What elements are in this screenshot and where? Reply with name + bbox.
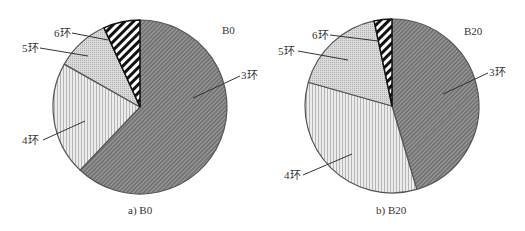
slice-label-5: 5环 bbox=[278, 45, 295, 57]
slice-label-6: 6环 bbox=[54, 27, 71, 39]
slice-label-4: 4环 bbox=[22, 134, 39, 146]
slice-label-3: 3环 bbox=[489, 66, 506, 78]
chart-title: B20 bbox=[464, 25, 483, 37]
pie-b20 bbox=[305, 19, 479, 193]
slice-label-3: 3环 bbox=[241, 69, 258, 81]
chart-caption: b) B20 bbox=[376, 204, 407, 217]
pie-chart-figure: B0 3环 4环 5环 6环 a) B0 B20 3环 4环 5环 6环 b) … bbox=[0, 0, 525, 231]
slice-label-5: 5环 bbox=[22, 42, 39, 54]
slice-label-4: 4环 bbox=[284, 169, 301, 181]
chart-caption: a) B0 bbox=[128, 204, 153, 217]
chart-title: B0 bbox=[222, 24, 235, 36]
slice-label-6: 6环 bbox=[312, 29, 329, 41]
pie-b0 bbox=[53, 20, 227, 194]
chart-canvas: B0 3环 4环 5环 6环 a) B0 B20 3环 4环 5环 6环 b) … bbox=[0, 0, 525, 231]
